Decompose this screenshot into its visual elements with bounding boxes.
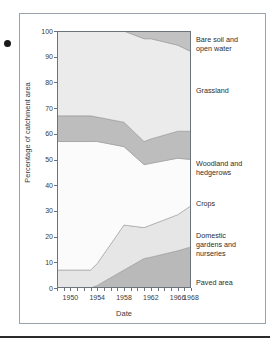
legend-label: Paved area bbox=[196, 278, 260, 287]
x-axis-tick-mark bbox=[97, 288, 98, 291]
x-axis-tick-label: 1954 bbox=[89, 293, 105, 302]
y-axis-tick-label: 70 bbox=[31, 105, 53, 112]
x-axis-tick-mark bbox=[91, 288, 92, 291]
x-axis-title: Date bbox=[57, 309, 191, 318]
legend-label: Woodland and hedgerows bbox=[196, 159, 260, 177]
y-axis-tick-label: 40 bbox=[31, 182, 53, 189]
chart-plot-area bbox=[57, 31, 191, 288]
legend-label: Grassland bbox=[196, 86, 260, 95]
x-axis-tick-mark bbox=[57, 288, 58, 291]
x-axis-tick-mark bbox=[171, 288, 172, 291]
legend-label: Crops bbox=[196, 199, 260, 208]
y-axis-title: Percentage of catchment area bbox=[23, 58, 32, 208]
x-axis-tick-mark bbox=[131, 288, 132, 291]
y-axis-tick-mark bbox=[54, 57, 57, 58]
x-axis-tick-label: 1968 bbox=[183, 293, 199, 302]
x-axis-tick-mark bbox=[184, 288, 185, 291]
legend-label: Bare soil and open water bbox=[196, 35, 260, 53]
y-axis-tick-label: 10 bbox=[31, 259, 53, 266]
y-axis-tick-label: 20 bbox=[31, 233, 53, 240]
y-axis-tick-label: 80 bbox=[31, 79, 53, 86]
x-axis-tick-mark bbox=[144, 288, 145, 291]
y-axis-tick-mark bbox=[54, 82, 57, 83]
x-axis-tick-mark bbox=[164, 288, 165, 291]
x-axis-tick-mark bbox=[178, 288, 179, 291]
y-axis-tick-mark bbox=[54, 262, 57, 263]
figure-bullet-marker bbox=[4, 40, 11, 47]
x-axis-tick-mark bbox=[70, 288, 71, 291]
x-axis-tick-mark bbox=[104, 288, 105, 291]
x-axis-tick-mark bbox=[158, 288, 159, 291]
y-axis-tick-label: 90 bbox=[31, 53, 53, 60]
legend-label: Domestic gardens and nurseries bbox=[196, 231, 260, 259]
y-axis-tick-labels: 0102030405060708090100 bbox=[31, 0, 53, 355]
x-axis-tick-mark bbox=[111, 288, 112, 291]
y-axis-tick-label: 30 bbox=[31, 207, 53, 214]
x-axis-tick-labels: 195019541958196219661968 bbox=[57, 293, 207, 305]
x-axis-tick-mark bbox=[124, 288, 125, 291]
y-axis-tick-mark bbox=[54, 134, 57, 135]
x-axis-tick-mark bbox=[84, 288, 85, 291]
x-axis-tick-label: 1958 bbox=[116, 293, 132, 302]
chart-legend: Bare soil and open waterGrasslandWoodlan… bbox=[196, 31, 260, 291]
y-axis-tick-label: 0 bbox=[31, 285, 53, 292]
y-axis-tick-mark bbox=[54, 185, 57, 186]
bottom-horizontal-rule bbox=[0, 336, 270, 338]
x-axis-tick-mark bbox=[191, 288, 192, 291]
x-axis-tick-mark bbox=[64, 288, 65, 291]
x-axis-tick-mark bbox=[151, 288, 152, 291]
y-axis-tick-label: 60 bbox=[31, 130, 53, 137]
x-axis-tick-mark bbox=[137, 288, 138, 291]
y-axis-tick-mark bbox=[54, 211, 57, 212]
x-axis-tick-label: 1950 bbox=[63, 293, 79, 302]
y-axis-tick-mark bbox=[54, 31, 57, 32]
stacked-area-chart bbox=[57, 31, 191, 288]
y-axis-tick-mark bbox=[54, 160, 57, 161]
y-axis-tick-label: 100 bbox=[31, 28, 53, 35]
x-axis-tick-mark bbox=[77, 288, 78, 291]
x-axis-tick-label: 1962 bbox=[143, 293, 159, 302]
x-axis-tick-mark bbox=[117, 288, 118, 291]
y-axis-tick-mark bbox=[54, 108, 57, 109]
y-axis-tick-label: 50 bbox=[31, 156, 53, 163]
y-axis-tick-mark bbox=[54, 237, 57, 238]
